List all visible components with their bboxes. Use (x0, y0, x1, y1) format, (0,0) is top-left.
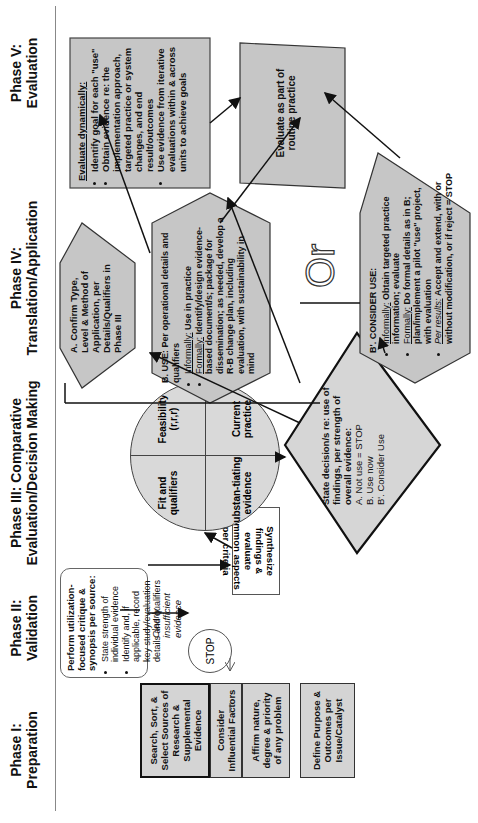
confirm-text: A. Confirm Type, Level & Method of Appli… (68, 253, 123, 353)
or-label: Or (300, 244, 340, 288)
consider-text: B'. CONSIDER USE: Informally: Obtain tar… (368, 168, 454, 353)
consider-formal-label: Formally: (402, 307, 412, 344)
dynamic-eval-bullet: Obtain evidence re: the implementation a… (100, 41, 155, 172)
decision-title: State decision/s re: use of findings, pe… (320, 375, 353, 505)
decision-option-a: A. Not use = STOP (353, 375, 364, 505)
consider-informal-label: Informally: (381, 302, 391, 344)
connectors-layer (0, 0, 478, 823)
dynamic-eval-bullet: Identify goal for each "use" (89, 41, 100, 172)
dynamic-eval-text: Evaluate dynamically: Identify goal for … (76, 41, 188, 181)
use-title: B. USE: Per operational details and qual… (160, 232, 181, 383)
decision-option-b-prime: B'. Consider Use (375, 375, 386, 505)
routine-text: Evaluate as part of routine practice (275, 68, 297, 158)
consider-results-label: Per results: (433, 298, 443, 344)
diagram-canvas: Phase I: Preparation Phase II: Validatio… (0, 0, 478, 823)
decision-option-b: B. Use now (364, 375, 375, 505)
use-informal-label: Informally: (183, 332, 193, 374)
decision-text: State decision/s re: use of findings, pe… (320, 375, 386, 505)
dynamic-eval-bullet: Use evidence from iterative evaluations … (155, 41, 188, 172)
use-formal-label: Formally: (194, 337, 204, 374)
use-text: B. USE: Per operational details and qual… (160, 213, 257, 383)
use-informal-text: Use in practice (183, 266, 193, 330)
consider-title: B'. CONSIDER USE: (368, 268, 378, 353)
dynamic-eval-title: Evaluate dynamically: (76, 82, 87, 181)
